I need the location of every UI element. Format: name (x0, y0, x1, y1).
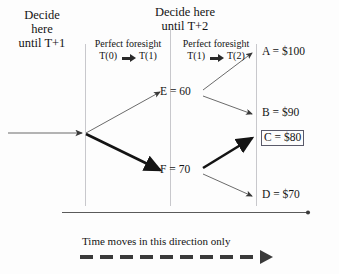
header-decide-t2-line1: Decide here (120, 5, 250, 19)
dash-segment (180, 255, 193, 259)
decision-tree-diagram: Decide here until T+1 Decide here until … (0, 0, 339, 274)
terminal-B-label: B = $90 (262, 106, 299, 119)
foresight-left-label: Perfect foresight (86, 38, 170, 49)
right-arrow-icon (208, 51, 224, 62)
node-E-label: E = 60 (160, 85, 191, 98)
header-decide-t1-line1: Decide (6, 8, 78, 22)
dash-segment (220, 255, 233, 259)
branch-F-to-C (203, 138, 252, 168)
foresight-right-transition: T(1)T(2) (172, 50, 260, 62)
time-caption: Time moves in this direction only (82, 235, 230, 247)
branch-root-to-E (86, 92, 160, 133)
header-decide-t1-line3: until T+1 (6, 36, 78, 50)
foresight-left-to: T(1) (139, 50, 157, 61)
header-decide-t2-line2: until T+2 (120, 19, 250, 33)
dash-segment (100, 255, 113, 259)
branch-F-to-D (203, 174, 252, 196)
terminal-A-label: A = $100 (262, 45, 305, 58)
foresight-block-right: Perfect foresight T(1)T(2) (172, 38, 260, 62)
foresight-left-transition: T(0)T(1) (86, 50, 170, 62)
terminal-C-label: C = $80 (261, 130, 304, 146)
dash-segment (240, 255, 253, 259)
terminal-D-label: D = $70 (262, 188, 300, 201)
time-direction-dashed-arrow-icon (80, 250, 273, 264)
foresight-block-left: Perfect foresight T(0)T(1) (86, 38, 170, 62)
right-arrow-icon (120, 51, 136, 62)
foresight-left-from: T(0) (99, 50, 117, 61)
node-F-label: F = 70 (160, 163, 190, 176)
branch-E-to-B (203, 96, 252, 114)
header-decide-t1-line2: here (6, 22, 78, 36)
dash-segment (120, 255, 133, 259)
dash-arrow-head (260, 250, 273, 264)
branch-root-to-F (86, 134, 160, 170)
header-decide-t2: Decide here until T+2 (120, 5, 250, 33)
foresight-right-to: T(2) (227, 50, 245, 61)
dash-segment (200, 255, 213, 259)
header-decide-t1: Decide here until T+1 (6, 8, 78, 50)
foresight-right-label: Perfect foresight (172, 38, 260, 49)
dash-segment (80, 255, 93, 259)
foresight-right-from: T(1) (187, 50, 205, 61)
dash-segment (140, 255, 153, 259)
dash-segment (160, 255, 173, 259)
